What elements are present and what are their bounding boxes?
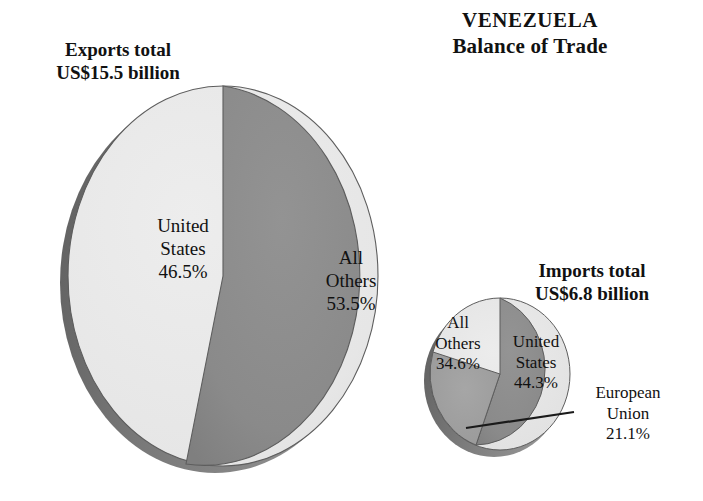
imports-label-eu-name-2: Union (560, 404, 696, 425)
imports-caption-line-1: Imports total (492, 259, 692, 282)
imports-label-european-union: European Union 21.1% (560, 383, 696, 445)
exports-pie-chart (55, 78, 395, 478)
exports-pie-top-face (68, 86, 378, 466)
imports-label-eu-name-1: European (560, 383, 696, 404)
page-title: VENEZUELA Balance of Trade (380, 8, 680, 59)
title-line-1: VENEZUELA (380, 8, 680, 34)
title-line-2: Balance of Trade (380, 34, 680, 60)
imports-pie-top-face (430, 298, 570, 450)
exports-pie-svg (55, 78, 395, 478)
chart-canvas: VENEZUELA Balance of Trade Exports total… (0, 0, 703, 501)
imports-label-eu-percent: 21.1% (560, 424, 696, 445)
exports-caption-line-1: Exports total (8, 38, 228, 61)
